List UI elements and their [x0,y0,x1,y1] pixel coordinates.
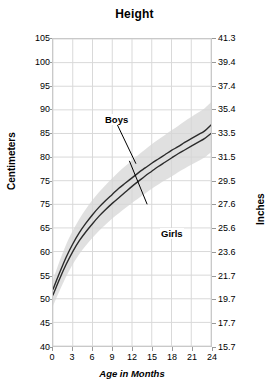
height-growth-chart: Height Centimeters Inches Age in Months … [0,0,269,392]
plot-svg [53,39,211,346]
y-axis-right-tick-label: 23.6 [218,247,262,257]
y-axis-right-tick-mark [212,86,216,87]
plot-area [52,38,212,347]
y-axis-left-tick-mark [48,38,52,39]
x-axis-tick-label: 12 [122,352,142,362]
y-axis-left-tick-label: 85 [14,128,50,138]
y-axis-left-tick-mark [48,86,52,87]
y-axis-right-tick-label: 19.7 [218,294,262,304]
x-axis-tick-mark [52,347,53,351]
x-axis-tick-mark [72,347,73,351]
y-axis-left-tick-label: 45 [14,318,50,328]
y-axis-right-tick-label: 15.7 [218,342,262,352]
y-axis-right-tick-label: 27.6 [218,199,262,209]
x-axis-tick-label: 9 [102,352,122,362]
y-axis-left-tick-label: 40 [14,342,50,352]
y-axis-left-tick-mark [48,133,52,134]
y-axis-left-tick-label: 95 [14,81,50,91]
y-axis-left-tick-mark [48,252,52,253]
y-axis-left-tick-mark [48,299,52,300]
y-axis-right-tick-label: 35.4 [218,104,262,114]
y-axis-left-tick-mark [48,157,52,158]
x-axis-tick-label: 15 [142,352,162,362]
y-axis-right-tick-mark [212,133,216,134]
y-axis-right-tick-label: 37.4 [218,81,262,91]
girls-series-label: Girls [160,228,184,239]
y-axis-right-tick-label: 39.4 [218,57,262,67]
x-axis-tick-mark [172,347,173,351]
y-axis-right-tick-mark [212,228,216,229]
y-axis-left-tick-label: 80 [14,152,50,162]
y-axis-right-tick-mark [212,62,216,63]
y-axis-left-tick-mark [48,62,52,63]
y-axis-right-tick-label: 41.3 [218,33,262,43]
y-axis-left-tick-label: 60 [14,247,50,257]
y-axis-right-tick-label: 31.5 [218,152,262,162]
y-axis-left-tick-label: 50 [14,294,50,304]
x-axis-tick-label: 6 [82,352,102,362]
y-axis-right-tick-label: 29.5 [218,176,262,186]
y-axis-right-tick-label: 21.7 [218,271,262,281]
y-axis-left-tick-mark [48,181,52,182]
x-axis-title: Age in Months [52,368,212,379]
x-axis-tick-label: 3 [62,352,82,362]
x-axis-tick-label: 18 [162,352,182,362]
y-axis-left-tick-label: 75 [14,176,50,186]
y-axis-left-tick-mark [48,323,52,324]
y-axis-left-tick-label: 105 [14,33,50,43]
y-axis-right-tick-label: 33.5 [218,128,262,138]
y-axis-left-tick-label: 55 [14,271,50,281]
y-axis-left-tick-label: 75 [14,199,50,209]
x-axis-tick-label: 24 [202,352,222,362]
y-axis-left-tick-mark [48,204,52,205]
y-axis-left-tick-label: 90 [14,104,50,114]
y-axis-right-tick-mark [212,109,216,110]
y-axis-right-tick-mark [212,181,216,182]
y-axis-right-tick-mark [212,38,216,39]
y-axis-right-tick-mark [212,323,216,324]
x-axis-tick-label: 0 [42,352,62,362]
x-axis-tick-mark [92,347,93,351]
x-axis-tick-mark [152,347,153,351]
y-axis-left-tick-label: 65 [14,223,50,233]
y-axis-right-tick-label: 25.6 [218,223,262,233]
x-axis-tick-mark [132,347,133,351]
x-axis-tick-label: 21 [182,352,202,362]
y-axis-right-tick-mark [212,157,216,158]
y-axis-right-tick-mark [212,299,216,300]
chart-title: Height [0,7,269,21]
y-axis-right-tick-mark [212,252,216,253]
y-axis-left-tick-mark [48,109,52,110]
y-axis-left-tick-mark [48,276,52,277]
y-axis-right-tick-label: 17.7 [218,318,262,328]
y-axis-right-tick-mark [212,276,216,277]
boys-series-label: Boys [104,114,129,125]
x-axis-tick-mark [192,347,193,351]
x-axis-tick-mark [212,347,213,351]
x-axis-tick-mark [112,347,113,351]
y-axis-right-tick-mark [212,204,216,205]
y-axis-left-tick-mark [48,228,52,229]
y-axis-left-tick-label: 100 [14,57,50,67]
